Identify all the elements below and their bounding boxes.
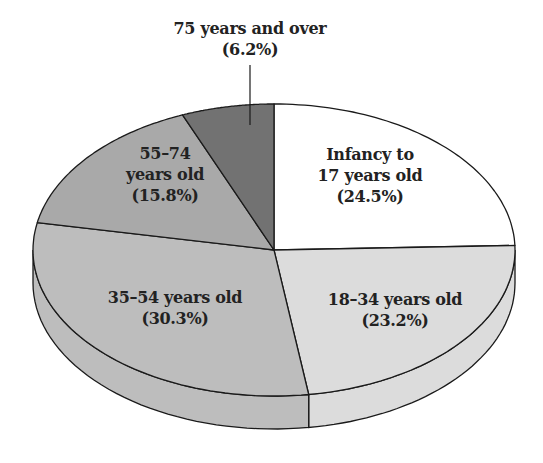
label-18-34: 18–34 years old (23.2%): [310, 289, 480, 331]
label-55-74-value: (15.8%): [105, 185, 225, 206]
label-55-74-unit: years old: [105, 164, 225, 185]
label-75-value: (6.2%): [150, 39, 350, 60]
label-35-54-name: 35–54 years old: [90, 287, 260, 308]
label-infancy-17: Infancy to 17 years old (24.5%): [300, 144, 440, 207]
label-55-74: 55–74 years old (15.8%): [105, 143, 225, 206]
label-infancy-line2: 17 years old: [300, 165, 440, 186]
label-18-34-value: (23.2%): [310, 310, 480, 331]
label-75-name: 75 years and over: [150, 18, 350, 39]
label-infancy-line1: Infancy to: [300, 144, 440, 165]
label-75-and-over: 75 years and over (6.2%): [150, 18, 350, 60]
label-18-34-name: 18–34 years old: [310, 289, 480, 310]
label-35-54-value: (30.3%): [90, 308, 260, 329]
label-55-74-range: 55–74: [105, 143, 225, 164]
label-infancy-value: (24.5%): [300, 186, 440, 207]
pie-chart: [0, 0, 543, 463]
label-35-54: 35–54 years old (30.3%): [90, 287, 260, 329]
